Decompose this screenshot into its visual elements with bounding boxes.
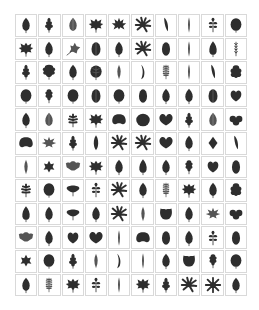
leaf-palmate-spiky-icon [110, 205, 128, 223]
leaf-compound-small-icon [87, 181, 105, 199]
leaf-oak-small-icon [204, 252, 222, 270]
leaf-specimen-cell [131, 156, 153, 179]
leaf-lanceolate-tilt-icon [204, 63, 222, 81]
leaf-kidney-icon [110, 111, 128, 129]
leaf-lobed-small-icon [64, 134, 82, 152]
leaf-specimen-cell [178, 274, 200, 297]
leaf-specimen-cell [38, 156, 60, 179]
leaf-fern-icon [157, 181, 175, 199]
leaf-specimen-cell [131, 226, 153, 249]
leaf-maple-deep-icon [110, 16, 128, 34]
leaf-ovate-icon [180, 229, 198, 247]
leaf-specimen-cell [85, 156, 107, 179]
leaf-specimen-cell [108, 108, 130, 131]
leaf-specimen-cell [155, 132, 177, 155]
leaf-specimen-cell [155, 250, 177, 273]
leaf-specimen-cell [62, 250, 84, 273]
leaf-oval-icon [134, 87, 152, 105]
leaf-ovate-icon [180, 87, 198, 105]
leaf-specimen-cell [38, 274, 60, 297]
leaf-ovate-icon [134, 181, 152, 199]
leaf-ovate-long-icon [87, 134, 105, 152]
leaf-ovate-icon [227, 276, 245, 294]
leaf-specimen-cell [178, 156, 200, 179]
leaf-specimen-cell [131, 38, 153, 61]
leaf-specimen-cell [108, 226, 130, 249]
leaf-specimen-cell [131, 14, 153, 37]
leaf-specimen-cell [201, 85, 223, 108]
leaf-square-lobed-icon [157, 205, 175, 223]
leaf-specimen-cell [62, 108, 84, 131]
leaf-linear-icon [134, 252, 152, 270]
leaf-palmate-spiky-icon [134, 16, 152, 34]
leaf-oak-small-icon [180, 158, 198, 176]
leaf-star-icon [204, 276, 222, 294]
leaf-specimen-cell [15, 274, 37, 297]
leaf-maple-wide-icon [87, 16, 105, 34]
leaf-specimen-cell [15, 14, 37, 37]
leaf-specimen-cell [62, 14, 84, 37]
leaf-oval-icon [157, 40, 175, 58]
leaf-lobed-small-icon [157, 276, 175, 294]
leaf-ivy-tilt-icon [64, 40, 82, 58]
leaf-specimen-cell [201, 274, 223, 297]
leaf-specimen-cell [38, 85, 60, 108]
leaf-round-icon [40, 181, 58, 199]
leaf-ovate-icon [110, 40, 128, 58]
leaf-round-icon [64, 87, 82, 105]
leaf-heart-round-icon [204, 158, 222, 176]
leaf-specimen-cell [38, 61, 60, 84]
leaf-maple-small-icon [40, 158, 58, 176]
leaf-maple-wide-icon [87, 158, 105, 176]
leaf-ovate-icon [157, 158, 175, 176]
leaf-oval-vein-icon [87, 87, 105, 105]
leaf-ovate-pointed-icon [204, 40, 222, 58]
leaf-fern-thin-icon [227, 40, 245, 58]
leaf-ovate-icon [110, 158, 128, 176]
leaf-specimen-cell [85, 203, 107, 226]
leaf-linear-icon [180, 40, 198, 58]
leaf-specimen-cell [155, 203, 177, 226]
leaf-specimen-cell [155, 108, 177, 131]
leaf-oak-wide-icon [64, 158, 82, 176]
leaf-oak-small-icon [40, 87, 58, 105]
leaf-specimen-cell [201, 61, 223, 84]
leaf-specimen-cell [85, 38, 107, 61]
leaf-specimen-cell [201, 156, 223, 179]
leaf-specimen-cell [131, 203, 153, 226]
leaf-specimen-cell [108, 179, 130, 202]
leaf-specimen-cell [131, 132, 153, 155]
leaf-ovate-icon [17, 111, 35, 129]
leaf-maple-light-icon [204, 205, 222, 223]
leaf-specimen-cell [38, 250, 60, 273]
leaf-ovate-light-icon [40, 111, 58, 129]
leaf-maple-wide-icon [87, 111, 105, 129]
leaf-lanceolate-icon [134, 205, 152, 223]
leaf-round-icon [227, 16, 245, 34]
leaf-palmate-spiky-icon [110, 181, 128, 199]
leaf-specimen-cell [201, 14, 223, 37]
leaf-specimen-cell [225, 226, 247, 249]
leaf-specimen-cell [131, 274, 153, 297]
leaf-specimen-cell [38, 14, 60, 37]
leaf-specimen-cell [38, 38, 60, 61]
leaf-specimen-cell [225, 14, 247, 37]
leaf-specimen-cell [178, 250, 200, 273]
leaf-specimen-cell [178, 179, 200, 202]
leaf-specimen-cell [178, 61, 200, 84]
leaf-specimen-cell [15, 179, 37, 202]
leaf-specimen-cell [155, 156, 177, 179]
leaf-specimen-cell [225, 179, 247, 202]
leaf-grid [15, 14, 247, 296]
leaf-specimen-cell [178, 226, 200, 249]
leaf-lobed-round-icon [227, 63, 245, 81]
leaf-lanceolate-tilt-icon [227, 134, 245, 152]
leaf-specimen-cell [38, 203, 60, 226]
leaf-specimen-cell [155, 85, 177, 108]
leaf-ovate-icon [157, 87, 175, 105]
leaf-ovate-icon [17, 276, 35, 294]
leaf-specimen-cell [62, 85, 84, 108]
leaf-specimen-cell [108, 132, 130, 155]
leaf-ovate-icon [64, 63, 82, 81]
leaf-specimen-cell [155, 14, 177, 37]
